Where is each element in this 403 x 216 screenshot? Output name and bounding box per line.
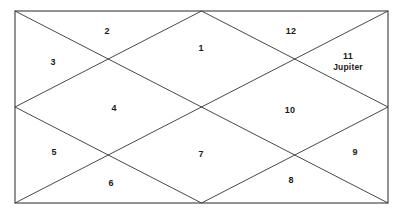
house-2-number: 2: [104, 26, 109, 37]
house-10[interactable]: 10: [285, 105, 295, 116]
planet-jupiter-label: Jupiter: [333, 62, 363, 73]
house-11-number: 11: [333, 51, 363, 62]
house-12[interactable]: 12: [286, 26, 296, 37]
house-8[interactable]: 8: [288, 175, 293, 186]
chart-line-art: [0, 0, 403, 216]
house-8-number: 8: [288, 175, 293, 186]
house-6-number: 6: [108, 178, 113, 189]
house-11[interactable]: 11 Jupiter: [333, 51, 363, 73]
house-6[interactable]: 6: [108, 178, 113, 189]
house-9[interactable]: 9: [352, 147, 357, 158]
house-7[interactable]: 7: [198, 149, 203, 160]
house-1[interactable]: 1: [198, 43, 203, 54]
house-1-number: 1: [198, 43, 203, 54]
house-9-number: 9: [352, 147, 357, 158]
house-4[interactable]: 4: [111, 103, 116, 114]
house-5[interactable]: 5: [51, 147, 56, 158]
house-12-number: 12: [286, 26, 296, 37]
house-3-number: 3: [50, 57, 55, 68]
house-2[interactable]: 2: [104, 26, 109, 37]
astrology-chart: 1 2 3 4 5 6 7 8 9 10 11 Jupiter 12: [0, 0, 403, 216]
house-4-number: 4: [111, 103, 116, 114]
house-5-number: 5: [51, 147, 56, 158]
house-7-number: 7: [198, 149, 203, 160]
house-3[interactable]: 3: [50, 57, 55, 68]
house-10-number: 10: [285, 105, 295, 116]
